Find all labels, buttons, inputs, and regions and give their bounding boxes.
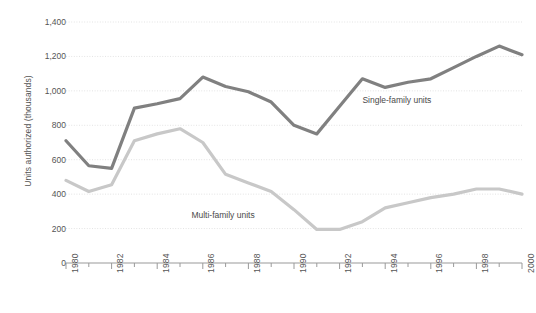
series-line-single-family-units <box>66 46 522 168</box>
x-tick-label: 1986 <box>206 253 216 273</box>
y-axis-tick-labels: 02004006008001,0001,2001,400 <box>0 0 66 313</box>
data-series-layer <box>66 46 522 229</box>
x-tick-label: 1996 <box>434 253 444 273</box>
y-tick-label: 1,400 <box>20 17 66 27</box>
x-tick-label: 1998 <box>480 253 490 273</box>
series-annotation: Single-family units <box>362 95 431 105</box>
series-line-multi-family-units <box>66 129 522 230</box>
y-tick-label: 800 <box>20 120 66 130</box>
y-tick-label: 600 <box>20 155 66 165</box>
y-tick-label: 1,200 <box>20 51 66 61</box>
y-tick-label: 200 <box>20 224 66 234</box>
x-tick-label: 2000 <box>526 253 536 273</box>
x-tick-label: 1984 <box>161 253 171 273</box>
x-tick-label: 1980 <box>70 253 80 273</box>
y-tick-label: 0 <box>20 258 66 268</box>
series-annotation: Multi-family units <box>191 210 254 220</box>
y-tick-label: 400 <box>20 189 66 199</box>
x-tick-label: 1994 <box>389 253 399 273</box>
x-tick-label: 1992 <box>343 253 353 273</box>
x-tick-label: 1990 <box>298 253 308 273</box>
x-tick-label: 1988 <box>252 253 262 273</box>
y-tick-label: 1,000 <box>20 86 66 96</box>
x-axis-ticks <box>66 263 522 269</box>
x-tick-label: 1982 <box>115 253 125 273</box>
